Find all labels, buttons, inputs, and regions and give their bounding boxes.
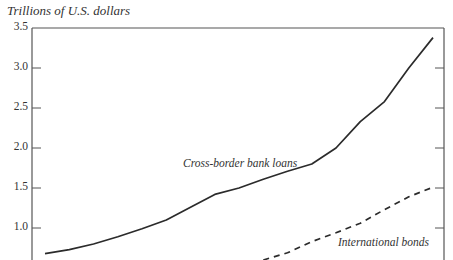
plot-frame	[32, 28, 444, 260]
series-line-cross-border-bank-loans	[45, 38, 433, 254]
line-chart	[0, 0, 453, 260]
series-line-international-bonds	[263, 187, 433, 260]
series-label-cross-border-bank-loans: Cross-border bank loans	[183, 157, 297, 169]
series-label-international-bonds: International bonds	[338, 236, 429, 248]
plot-series	[45, 38, 433, 260]
